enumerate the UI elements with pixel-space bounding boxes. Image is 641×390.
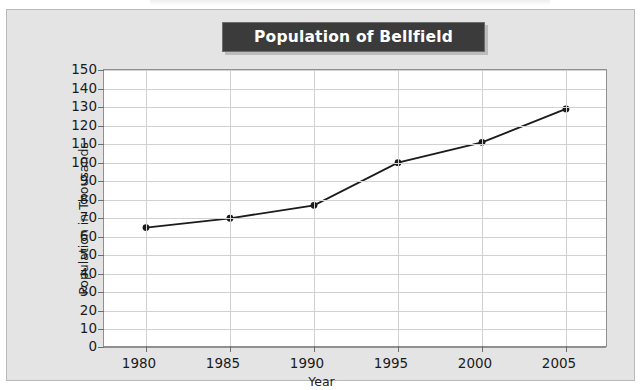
y-gridline [104,144,606,145]
x-axis-tick [146,346,147,352]
chart-panel: Population of Bellfield Population in Th… [6,9,635,381]
plot-area [103,69,607,347]
y-axis-tick-label: 60 [53,228,97,244]
y-gridline [104,126,606,127]
y-gridline [104,218,606,219]
y-axis-tick [98,237,104,238]
y-axis-tick [98,292,104,293]
y-axis-tick-label: 10 [53,320,97,336]
x-gridline [146,70,147,346]
y-gridline [104,107,606,108]
y-axis-tick [98,347,104,348]
y-gridline [104,255,606,256]
page-bleed-artifact [150,0,550,5]
y-axis-tick-label: 80 [53,191,97,207]
x-axis-tick-label: 1985 [188,355,258,371]
x-gridline [398,70,399,346]
x-axis-tick [314,346,315,352]
y-axis-labels: Population in Thousands 0102030405060708… [49,69,97,347]
x-axis-tick-label: 2000 [440,355,510,371]
y-axis-tick-label: 110 [53,135,97,151]
y-gridline [104,329,606,330]
y-axis-tick [98,107,104,108]
y-axis-tick-label: 40 [53,265,97,281]
y-axis-tick [98,218,104,219]
y-gridline [104,274,606,275]
series-line-path [146,109,566,228]
y-gridline [104,237,606,238]
series-markers [143,106,570,231]
chart-title-banner: Population of Bellfield [222,22,485,52]
x-axis-tick [398,346,399,352]
y-axis-tick [98,89,104,90]
y-gridline [104,292,606,293]
y-axis-tick-label: 120 [53,117,97,133]
x-gridline [482,70,483,346]
y-axis-tick [98,255,104,256]
x-axis-tick-label: 1980 [104,355,174,371]
y-axis-tick [98,311,104,312]
y-axis-tick-label: 150 [53,61,97,77]
y-axis-tick-label: 0 [53,338,97,354]
x-gridline [314,70,315,346]
y-axis-tick-label: 20 [53,302,97,318]
y-axis-tick-label: 140 [53,80,97,96]
y-gridline [104,347,606,348]
y-axis-tick [98,70,104,71]
x-axis-tick-label: 1990 [272,355,342,371]
y-axis-tick-label: 70 [53,209,97,225]
x-axis-tick [230,346,231,352]
y-axis-tick [98,329,104,330]
y-gridline [104,181,606,182]
y-gridline [104,163,606,164]
y-axis-tick-label: 130 [53,98,97,114]
y-gridline [104,311,606,312]
y-axis-tick [98,181,104,182]
x-axis-tick-label: 1995 [356,355,426,371]
y-axis-tick [98,200,104,201]
x-axis-title: Year [7,374,636,389]
chart-title: Population of Bellfield [254,28,453,46]
x-axis-tick [566,346,567,352]
y-axis-tick-label: 90 [53,172,97,188]
y-axis-tick-label: 30 [53,283,97,299]
y-axis-tick [98,163,104,164]
y-axis-tick-label: 50 [53,246,97,262]
y-gridline [104,89,606,90]
line-series [104,70,608,348]
x-gridline [230,70,231,346]
y-axis-tick [98,126,104,127]
y-axis-tick-label: 100 [53,154,97,170]
x-axis-tick [482,346,483,352]
y-gridline [104,200,606,201]
y-axis-tick [98,274,104,275]
x-axis-tick-label: 2005 [524,355,594,371]
y-gridline [104,70,606,71]
x-gridline [566,70,567,346]
y-axis-tick [98,144,104,145]
